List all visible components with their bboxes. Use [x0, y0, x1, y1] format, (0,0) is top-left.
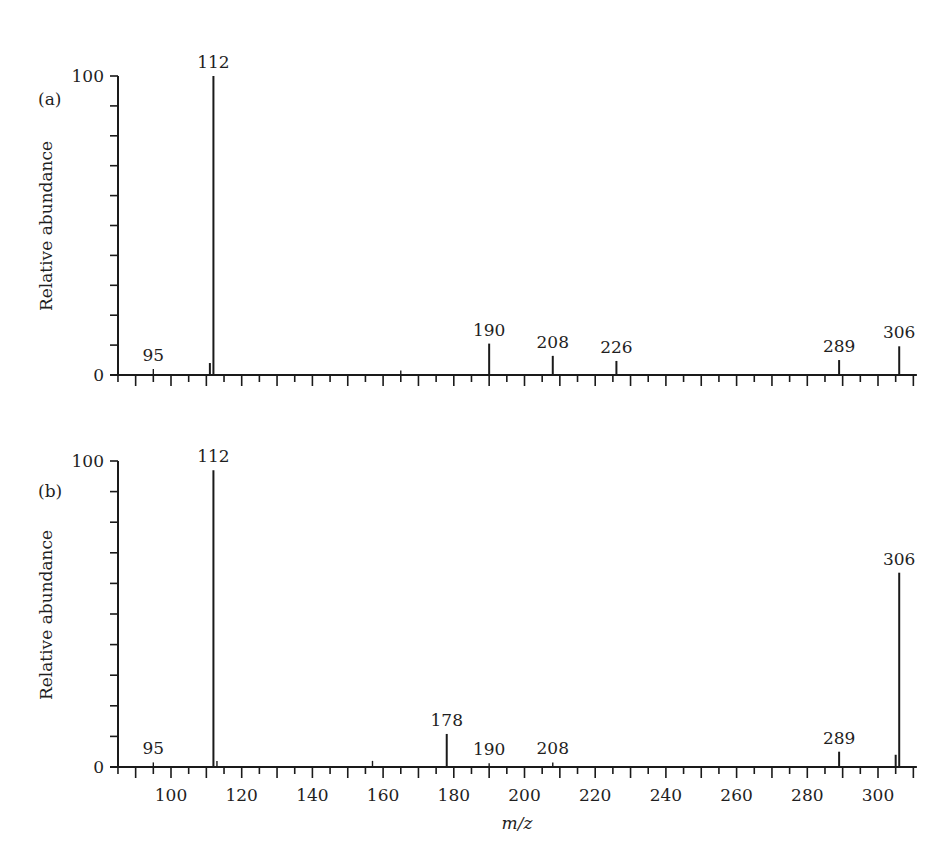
- y-tick-label: 100: [72, 66, 104, 86]
- x-tick-label: 100: [155, 785, 187, 805]
- panel-label: (b): [38, 481, 62, 501]
- panel-label: (a): [38, 89, 61, 109]
- x-axis-title: m/z: [502, 813, 534, 833]
- peak-label: 190: [473, 739, 505, 759]
- spectrum-panel-a: (a)Relative abundance0100951121902082262…: [36, 52, 917, 386]
- peak-label: 289: [823, 336, 855, 356]
- spectrum-panel-b: (b)Relative abundance0100100120140160180…: [36, 446, 917, 805]
- x-tick-label: 160: [367, 785, 399, 805]
- mass-spectra-figure: (a)Relative abundance0100951121902082262…: [0, 0, 949, 860]
- peak-label: 208: [537, 332, 569, 352]
- peak-label: 306: [883, 549, 915, 569]
- peak-label: 226: [600, 337, 632, 357]
- x-tick-label: 120: [225, 785, 257, 805]
- peak-label: 112: [197, 446, 229, 466]
- x-tick-label: 220: [579, 785, 611, 805]
- y-axis-title: Relative abundance: [36, 141, 56, 311]
- peak-label: 95: [143, 345, 165, 365]
- x-tick-label: 280: [791, 785, 823, 805]
- x-tick-label: 240: [650, 785, 682, 805]
- y-tick-label: 0: [93, 757, 104, 777]
- peak-label: 289: [823, 728, 855, 748]
- y-tick-label: 0: [93, 365, 104, 385]
- y-tick-label: 100: [72, 451, 104, 471]
- peak-label: 190: [473, 320, 505, 340]
- x-tick-label: 180: [438, 785, 470, 805]
- chart-canvas: (a)Relative abundance0100951121902082262…: [0, 0, 949, 860]
- x-tick-label: 260: [720, 785, 752, 805]
- y-axis-title: Relative abundance: [36, 530, 56, 700]
- x-tick-label: 200: [508, 785, 540, 805]
- peak-label: 306: [883, 322, 915, 342]
- x-tick-label: 300: [862, 785, 894, 805]
- peak-label: 178: [431, 710, 463, 730]
- peak-label: 208: [537, 738, 569, 758]
- x-tick-label: 140: [296, 785, 328, 805]
- peak-label: 95: [143, 738, 165, 758]
- peak-label: 112: [197, 52, 229, 72]
